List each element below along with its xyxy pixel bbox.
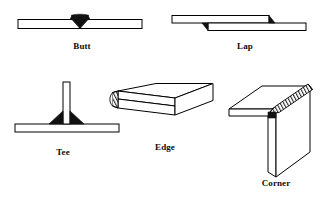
joint-corner-drawing — [229, 84, 313, 177]
joint-label-butt: Butt — [0, 41, 164, 51]
joint-label-edge: Edge — [110, 142, 220, 152]
joint-label-tee: Tee — [8, 147, 118, 157]
joint-edge-drawing — [110, 84, 213, 116]
joint-lap-drawing — [172, 16, 306, 31]
joint-label-lap: Lap — [163, 41, 327, 51]
welded-joints-figure: Butt Lap Tee Edge Corner — [0, 0, 327, 205]
joint-tee-drawing — [15, 82, 119, 132]
joint-label-corner: Corner — [228, 178, 324, 188]
joints-drawing — [0, 0, 327, 205]
joint-butt-drawing — [18, 14, 142, 28]
